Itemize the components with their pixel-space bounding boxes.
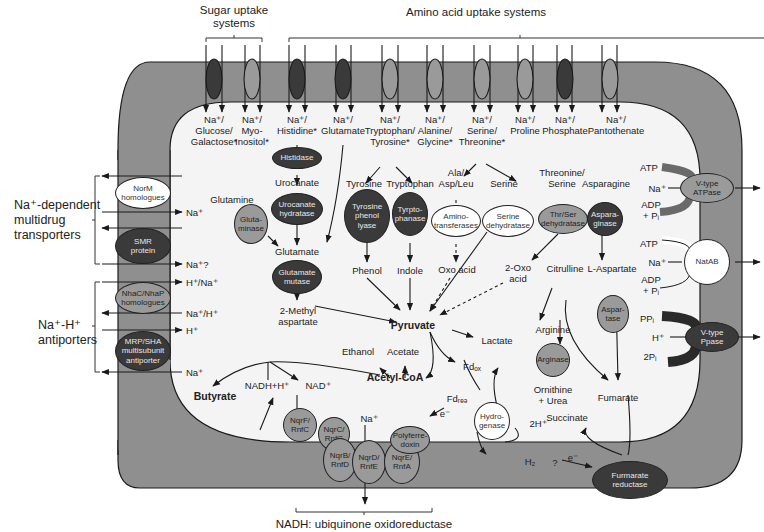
oxo-acid: Oxo acid xyxy=(438,264,476,275)
cell-diagram: Sugar uptake systems Amino acid uptake s… xyxy=(0,0,764,532)
ppase-h-label: H⁺ xyxy=(652,332,664,343)
natab-adp-label: ADP + Pᵢ xyxy=(641,274,661,296)
threonine-serine: Threonine/ Serine xyxy=(539,167,584,189)
asparagine: Asparagine xyxy=(582,178,630,189)
nad: NAD⁺ xyxy=(305,380,330,391)
natab-na-label: Na⁺ xyxy=(648,257,665,268)
v-type-atpase: V-type ATPase xyxy=(680,173,734,203)
ala-asp-leu: Ala/ Asp/Leu xyxy=(439,167,474,189)
amino-uptake-header: Amino acid uptake systems xyxy=(406,6,546,19)
methyl-aspartate: 2-Methyl aspartate xyxy=(278,305,318,327)
glutaminase: Gluta- minase xyxy=(234,204,268,244)
sugar-bracket xyxy=(206,35,262,42)
indole: Indole xyxy=(397,265,423,276)
succinate: Succinate xyxy=(546,412,588,423)
uptake-label-histidine: Na⁺/ Histidine* xyxy=(277,114,317,136)
nhac-nhap-homologues: NhaC/NhaP homologues xyxy=(115,282,171,314)
uptake-label-alanine: Na⁺/ Alanine/ Glycine* xyxy=(417,114,452,147)
uptake-label-myoinositol: Na⁺/ Myo- Inositol* xyxy=(235,114,269,147)
v-type-ppase: V-type Ppase xyxy=(685,322,739,352)
citrulline: Citrulline xyxy=(547,263,584,274)
antiporters-header: Na⁺-H⁺ antiporters xyxy=(38,318,97,348)
atpase-adp-label: ADP + Pᵢ xyxy=(641,199,661,221)
natab-atp-label: ATP xyxy=(640,238,658,249)
multidrug-transporters-header: Na⁺-dependent multidrug transporters xyxy=(14,198,100,243)
phenol: Phenol xyxy=(352,265,382,276)
uptake-label-serine: Na⁺/ Serine/ Threonine* xyxy=(459,114,505,147)
atpase-na-label: Na⁺ xyxy=(648,183,665,194)
na-plus-nqr: Na⁺ xyxy=(360,413,377,424)
acetate: Acetate xyxy=(387,346,419,357)
nadh-oxidoreductase-header: NADH: ubiquinone oxidoreductase xyxy=(276,518,452,531)
fumarate-reductase: Furmarate reductase xyxy=(592,461,668,499)
fd-ox: Fdₒₓ xyxy=(463,361,481,372)
two-h-plus: 2H⁺ xyxy=(529,418,546,429)
asparaginase: Aspara- ginase xyxy=(587,202,623,236)
arginine: Arginine xyxy=(536,324,571,335)
serine: Serine xyxy=(490,178,517,189)
nadh-h: NADH+H⁺ xyxy=(245,380,289,391)
arginase: Arginase xyxy=(536,343,570,377)
atpase-atp-label: ATP xyxy=(640,162,658,173)
question-mark: ? xyxy=(552,457,557,468)
ethanol: Ethanol xyxy=(342,346,374,357)
mrp-ion-in-label: H⁺ xyxy=(186,325,198,336)
uptake-label-glutamate: Na⁺/ Glutamate xyxy=(321,114,365,136)
aspartase: Aspar- tase xyxy=(597,295,629,333)
nhac-ion-out-label: Na⁺/H⁺ xyxy=(186,308,218,319)
norm-homologues: NorM homologues xyxy=(115,177,171,209)
oxo2-acid: 2-Oxo acid xyxy=(505,262,531,284)
tyrosine: Tyrosine xyxy=(346,178,382,189)
l-aspartate: L-Aspartate xyxy=(587,263,636,274)
nhac-ion-in-label: H⁺/Na⁺ xyxy=(186,277,218,288)
acetyl-coa: Acetyl-CoA xyxy=(367,372,424,383)
aminotransferases: Amino- transferases xyxy=(431,205,481,237)
h2: H₂ xyxy=(525,456,536,467)
hydrogenase: Hydro- genase xyxy=(474,402,510,440)
uptake-label-phosphate: Na⁺/ Phosphate xyxy=(542,114,587,136)
nqrf-rnfc: NqrF/ RnfC xyxy=(283,408,317,442)
uptake-label-pantothenate: Na⁺/ Pantothenate xyxy=(588,114,645,136)
e-minus-2: e⁻ xyxy=(568,452,578,463)
amino-bracket xyxy=(289,35,764,42)
mrp-ion-out-label: Na⁺ xyxy=(186,367,203,378)
urocanate-hydratase: Urocanate hydratase xyxy=(271,193,323,225)
fumarate: Fumarate xyxy=(598,392,639,403)
sugar-uptake-header: Sugar uptake systems xyxy=(200,4,268,30)
ppase-ppi-label: PPᵢ xyxy=(640,313,654,324)
ornithine-urea: Ornithine + Urea xyxy=(534,384,573,406)
thr-ser-dehydratase: Thr/Ser dehydratase xyxy=(538,204,588,234)
tryptophan: Tryptophan xyxy=(386,178,434,189)
norm-ion-label: Na⁺ xyxy=(186,207,203,218)
tryptophanase: Tyrpto- phanase xyxy=(392,192,428,236)
urocanate: Urocanate xyxy=(275,177,319,188)
uptake-label-tryptophan: Na⁺/ Tryptophan/ Tyrosine* xyxy=(365,114,415,147)
polyferredoxin: Polyferre- doxin xyxy=(390,426,430,454)
lactate: Lactate xyxy=(481,335,512,346)
butyrate: Butyrate xyxy=(194,391,237,402)
histidase: Histidase xyxy=(272,147,322,169)
uptake-label-glucose: Na⁺/ Glucose/ Galactose* xyxy=(191,114,237,147)
glutamate-mutase: Glutamate mutase xyxy=(272,260,322,294)
nqrd-rnfe: NqrD/ RnfE xyxy=(352,440,386,484)
fd-red: Fdᵣₑₔ xyxy=(447,393,467,404)
pyruvate: Pyruvate xyxy=(391,320,435,331)
tyrosine-phenol-lyase: Tyrosine phenol lyase xyxy=(344,189,390,243)
smr-protein: SMR protein xyxy=(115,228,171,264)
nadh-bracket xyxy=(296,508,432,515)
ppase-2pi-label: 2Pᵢ xyxy=(643,351,656,362)
mrp-sha-antiporter: MRP/SHA multisubunit antiporter xyxy=(115,331,171,371)
natab: NatAB xyxy=(684,239,730,285)
uptake-label-proline: Na⁺/ Proline xyxy=(510,114,540,136)
serine-dehydratase: Serine dehydratase xyxy=(482,205,534,237)
glutamate: Glutamate xyxy=(275,246,319,257)
smr-ion-label: Na⁺? xyxy=(186,259,208,270)
e-minus: e⁻ xyxy=(440,408,450,419)
glutamine: Glutamine xyxy=(210,194,253,205)
